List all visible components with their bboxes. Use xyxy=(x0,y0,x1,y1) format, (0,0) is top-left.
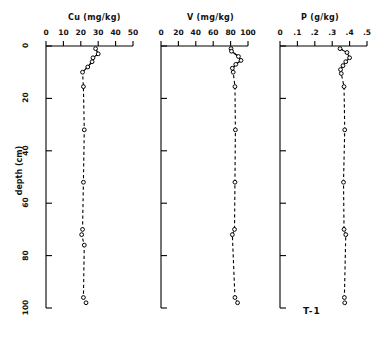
depth-profile-figure: Cu (mg/kg) V (mg/kg) P (g/kg) depth (cm)… xyxy=(0,0,385,340)
y-tick-label: 80 xyxy=(21,242,30,268)
y-tick-label: 20 xyxy=(21,85,30,111)
y-tick-label: 40 xyxy=(21,137,30,163)
plot-canvas xyxy=(0,0,385,340)
y-tick-label: 100 xyxy=(21,295,30,321)
y-tick-label: 60 xyxy=(21,190,30,216)
x-tick-label: .5 xyxy=(353,28,381,37)
y-tick-label: 0 xyxy=(21,33,30,59)
x-tick-label: 100 xyxy=(234,28,262,37)
x-tick-label: 50 xyxy=(119,28,147,37)
